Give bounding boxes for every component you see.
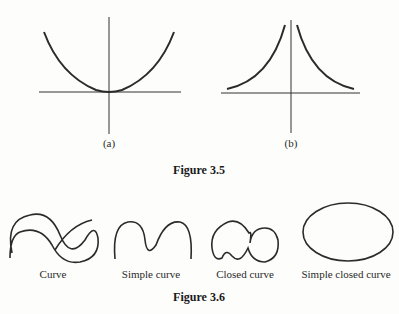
panel-label-a: (a) xyxy=(103,137,115,149)
figures-canvas xyxy=(0,0,399,314)
figure-3-6-caption: Figure 3.6 xyxy=(173,290,225,305)
panel-label-b: (b) xyxy=(285,137,298,149)
fig-3-5a-axes xyxy=(39,17,181,134)
figure-3-5-caption: Figure 3.5 xyxy=(173,163,225,178)
label-simple-curve: Simple curve xyxy=(122,268,180,280)
fig-3-5b-right-curve xyxy=(297,25,354,89)
fig-3-5b-axes xyxy=(221,20,360,133)
fig-3-6-simple-curve xyxy=(115,222,192,259)
label-closed-curve: Closed curve xyxy=(216,268,274,280)
fig-3-5b-left-curve xyxy=(227,25,285,89)
fig-3-6-simple-closed-curve xyxy=(303,203,393,261)
fig-3-6-closed-curve xyxy=(212,221,278,262)
label-simple-closed-curve: Simple closed curve xyxy=(301,268,390,280)
label-curve: Curve xyxy=(40,268,67,280)
